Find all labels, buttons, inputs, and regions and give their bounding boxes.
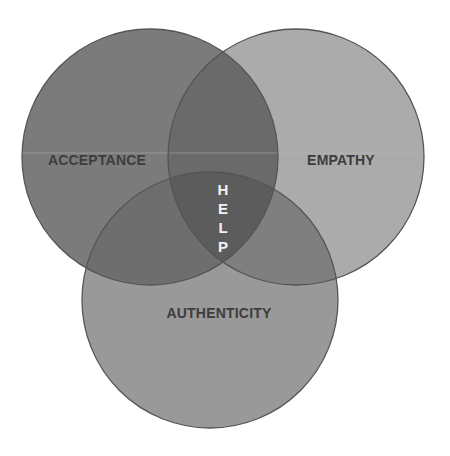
label-help-h: H	[218, 181, 229, 198]
label-empathy: EMPATHY	[307, 152, 375, 168]
venn-diagram: ACCEPTANCE EMPATHY AUTHENTICITY H E L P	[0, 0, 450, 456]
label-help-l: L	[218, 219, 227, 236]
label-help-p: P	[218, 238, 228, 255]
label-acceptance: ACCEPTANCE	[48, 152, 146, 168]
label-authenticity: AUTHENTICITY	[166, 305, 272, 321]
label-help-e: E	[218, 200, 228, 217]
